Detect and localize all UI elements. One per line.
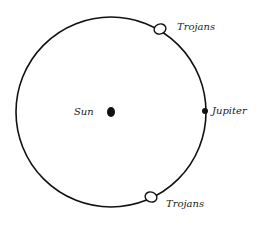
sun-label: Sun xyxy=(74,106,94,117)
orbit-diagram: Sun Jupiter Trojans Trojans xyxy=(0,0,263,226)
trojans-trailing-label: Trojans xyxy=(166,198,204,209)
trojans-leading-label: Trojans xyxy=(177,21,215,32)
jupiter-dot xyxy=(202,108,208,114)
trojans-trailing-marker xyxy=(144,190,159,204)
jupiter-label: Jupiter xyxy=(210,105,248,116)
sun-dot xyxy=(107,107,115,117)
